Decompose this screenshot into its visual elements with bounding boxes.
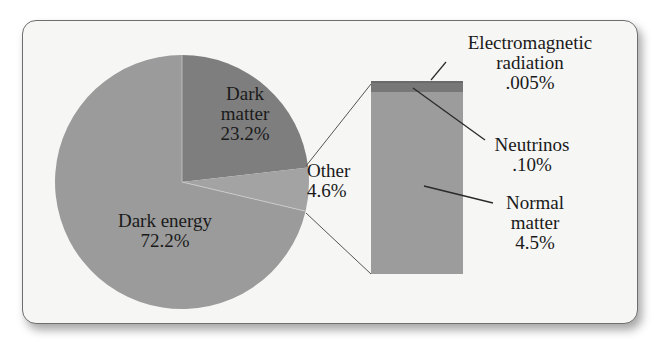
label-em-radiation: Electromagnetic radiation .005% bbox=[455, 33, 605, 93]
label-neutrinos-value: .10% bbox=[482, 155, 582, 175]
connector-top bbox=[306, 84, 371, 166]
label-normal-matter-line2: matter bbox=[495, 213, 575, 233]
label-dark-energy-line1: Dark energy bbox=[90, 211, 240, 231]
label-normal-matter-value: 4.5% bbox=[495, 233, 575, 253]
connector-bottom bbox=[306, 213, 371, 274]
label-dark-matter: Dark matter 23.2% bbox=[190, 84, 300, 144]
label-dark-matter-value: 23.2% bbox=[190, 124, 300, 144]
label-dark-energy: Dark energy 72.2% bbox=[90, 211, 240, 251]
label-dark-matter-line2: matter bbox=[190, 104, 300, 124]
leader-em-radiation bbox=[431, 62, 446, 80]
label-other-value: 4.6% bbox=[307, 181, 359, 201]
label-neutrinos: Neutrinos .10% bbox=[482, 135, 582, 175]
label-dark-matter-line1: Dark bbox=[190, 84, 300, 104]
bar-em-radiation bbox=[371, 81, 463, 83]
label-normal-matter: Normal matter 4.5% bbox=[495, 193, 575, 253]
label-em-radiation-value: .005% bbox=[455, 73, 605, 93]
label-other: Other 4.6% bbox=[307, 161, 359, 201]
bar-normal-matter bbox=[371, 91, 463, 274]
label-normal-matter-line1: Normal bbox=[495, 193, 575, 213]
label-other-line1: Other bbox=[307, 161, 359, 181]
label-neutrinos-line1: Neutrinos bbox=[482, 135, 582, 155]
label-em-radiation-line2: radiation bbox=[455, 53, 605, 73]
label-em-radiation-line1: Electromagnetic bbox=[455, 33, 605, 53]
label-dark-energy-value: 72.2% bbox=[90, 231, 240, 251]
